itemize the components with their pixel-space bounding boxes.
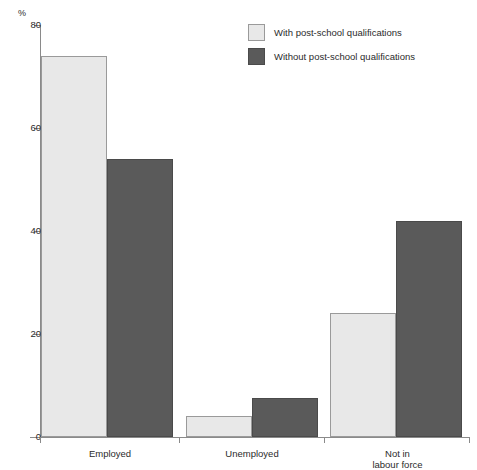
y-tick-label-20: 20	[13, 329, 41, 339]
legend-label-without-qualifications: Without post-school qualifications	[274, 51, 415, 62]
x-label-unemployed-line1: Unemployed	[182, 448, 322, 459]
legend-item-without-qualifications: Without post-school qualifications	[248, 46, 415, 66]
x-tick-group-2	[324, 437, 325, 443]
x-tick-end	[469, 437, 470, 443]
bar-employed-with-qualifications	[41, 56, 107, 437]
y-tick-label-0: 0	[13, 432, 41, 442]
legend-swatch-dark	[248, 48, 265, 65]
legend-swatch-light	[248, 24, 265, 41]
y-tick-label-80: 80	[13, 20, 41, 30]
y-axis-unit-label: %	[18, 8, 26, 18]
x-tick-group-1	[179, 437, 180, 443]
bar-unemployed-with-qualifications	[186, 416, 252, 437]
x-label-employed-line1: Employed	[40, 448, 180, 459]
x-label-not-in-labour-force: Not in labour force	[326, 448, 469, 470]
x-axis-line	[30, 437, 470, 438]
bar-not-in-labour-force-with-qualifications	[330, 313, 396, 437]
y-tick-label-60: 60	[13, 123, 41, 133]
x-label-not-in-labour-force-line1: Not in	[326, 448, 469, 459]
bar-unemployed-without-qualifications	[252, 398, 318, 437]
bar-employed-without-qualifications	[107, 159, 173, 437]
legend-label-with-qualifications: With post-school qualifications	[274, 27, 402, 38]
y-tick-label-40: 40	[13, 226, 41, 236]
x-label-unemployed: Unemployed	[182, 448, 322, 459]
legend-item-with-qualifications: With post-school qualifications	[248, 22, 415, 42]
x-label-not-in-labour-force-line2: labour force	[326, 459, 469, 470]
legend: With post-school qualifications Without …	[248, 22, 415, 70]
x-label-employed: Employed	[40, 448, 180, 459]
bar-not-in-labour-force-without-qualifications	[396, 221, 462, 437]
x-tick-start	[40, 437, 41, 443]
